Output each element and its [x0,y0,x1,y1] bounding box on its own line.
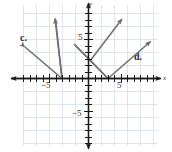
curve-label-d: d. [134,51,142,62]
x-tick-label-pos5: 5 [117,80,122,90]
curve-label-c: c. [20,32,27,43]
x-axis-label: x [163,74,166,82]
y-axis-label: y [89,0,92,8]
curve-c-left-branch [25,47,62,79]
graph-screenshot: x y −5 5 5 −5 c. d. [0,0,172,152]
y-tick-label-pos5: 5 [78,32,83,42]
coordinate-plane [0,0,172,152]
curve-c-right-branch [55,19,62,79]
axis-lines [11,3,161,149]
curve-d-left-branch [74,44,108,79]
y-tick-label-neg5: −5 [72,108,82,118]
x-tick-label-neg5: −5 [41,80,51,90]
curve-d-left-branch-arrow [90,19,122,61]
